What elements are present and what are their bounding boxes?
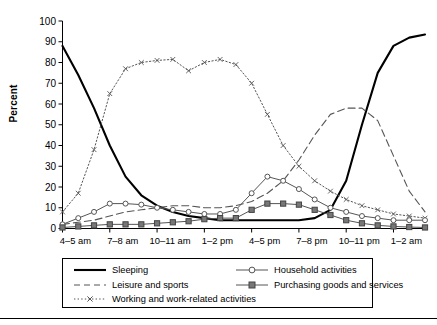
series-marker-purchasing bbox=[312, 207, 317, 212]
y-tick-label: 80 bbox=[45, 57, 57, 68]
y-tick-label: 60 bbox=[45, 99, 57, 110]
line-filled-square-swatch bbox=[235, 279, 269, 291]
series-marker-working bbox=[312, 178, 317, 183]
series-marker-household bbox=[92, 209, 97, 214]
legend-item-sleeping[interactable]: Sleeping bbox=[63, 264, 215, 276]
dashed-line-swatch bbox=[73, 279, 107, 291]
series-marker-purchasing bbox=[170, 220, 175, 225]
series-marker-household bbox=[170, 207, 175, 212]
series-marker-household bbox=[328, 205, 333, 210]
y-tick-label: 0 bbox=[50, 223, 56, 234]
series-marker-purchasing bbox=[328, 212, 333, 217]
series-marker-household bbox=[249, 191, 254, 196]
legend-label: Sleeping bbox=[112, 265, 148, 275]
series-marker-purchasing bbox=[422, 225, 427, 230]
series-line-sleeping bbox=[63, 34, 426, 220]
series-marker-household bbox=[76, 216, 81, 221]
series-marker-working bbox=[186, 68, 191, 73]
series-marker-working bbox=[281, 143, 286, 148]
series-marker-purchasing bbox=[344, 218, 349, 223]
series-marker-household bbox=[155, 205, 160, 210]
series-marker-purchasing bbox=[107, 222, 112, 227]
chart-legend: SleepingHousehold activitiesLeisure and … bbox=[62, 258, 373, 308]
series-marker-household bbox=[375, 216, 380, 221]
series-marker-purchasing bbox=[139, 222, 144, 227]
series-marker-household bbox=[107, 201, 112, 206]
series-marker-working bbox=[391, 212, 396, 217]
legend-label: Purchasing goods and services bbox=[274, 280, 403, 290]
time-use-line-chart: Percent 01020304050607080901004–5 am7–8 … bbox=[0, 0, 437, 250]
x-tick-label: 4–5 am bbox=[60, 235, 91, 246]
series-marker-purchasing bbox=[218, 216, 223, 221]
series-marker-purchasing bbox=[265, 201, 270, 206]
series-marker-purchasing bbox=[123, 222, 128, 227]
y-tick-label: 70 bbox=[45, 78, 57, 89]
legend-label: Household activities bbox=[274, 265, 357, 275]
series-marker-working bbox=[360, 203, 365, 208]
y-tick-label: 20 bbox=[45, 182, 57, 193]
series-marker-working bbox=[328, 189, 333, 194]
line-open-circle-swatch bbox=[235, 264, 269, 276]
legend-row: SleepingHousehold activities bbox=[63, 263, 372, 278]
legend-label: Working and work-related activities bbox=[112, 294, 256, 304]
x-tick-label: 10–11 pm bbox=[339, 235, 380, 246]
series-marker-household bbox=[123, 201, 128, 206]
series-marker-purchasing bbox=[76, 224, 81, 229]
series-marker-purchasing bbox=[391, 224, 396, 229]
x-tick-label: 1–2 pm bbox=[202, 235, 233, 246]
chart-screenshot: Percent 01020304050607080901004–5 am7–8 … bbox=[0, 0, 437, 325]
series-marker-purchasing bbox=[91, 223, 96, 228]
y-tick-label: 40 bbox=[45, 140, 57, 151]
x-tick-label: 7–8 pm bbox=[296, 235, 327, 246]
x-tick-label: 10–11 am bbox=[150, 235, 191, 246]
series-marker-purchasing bbox=[202, 217, 207, 222]
series-line-working-and-work-related-activities bbox=[63, 59, 426, 218]
series-marker-household bbox=[202, 211, 207, 216]
solid-line-swatch bbox=[73, 264, 107, 276]
series-marker-household bbox=[391, 218, 396, 223]
series-marker-household bbox=[296, 187, 301, 192]
legend-item-working[interactable]: Working and work-related activities bbox=[63, 293, 256, 305]
series-marker-household bbox=[407, 218, 412, 223]
y-tick-label: 30 bbox=[45, 161, 57, 172]
series-marker-purchasing bbox=[359, 221, 364, 226]
series-marker-purchasing bbox=[60, 225, 65, 230]
series-marker-purchasing bbox=[186, 219, 191, 224]
legend-item-purchasing[interactable]: Purchasing goods and services bbox=[225, 279, 403, 291]
y-tick-label: 10 bbox=[45, 202, 57, 213]
x-tick-label: 7–8 am bbox=[107, 235, 138, 246]
series-marker-working bbox=[344, 197, 349, 202]
series-marker-household bbox=[186, 209, 191, 214]
series-line-purchasing-goods-and-services bbox=[63, 204, 426, 228]
series-marker-working bbox=[155, 58, 160, 63]
series-marker-household bbox=[139, 202, 144, 207]
series-marker-purchasing bbox=[281, 201, 286, 206]
series-marker-working bbox=[249, 81, 254, 86]
series-marker-working bbox=[233, 62, 238, 67]
series-line-household-activities bbox=[63, 177, 426, 225]
series-marker-purchasing bbox=[154, 221, 159, 226]
series-marker-purchasing bbox=[407, 224, 412, 229]
y-tick-label: 50 bbox=[45, 119, 57, 130]
legend-row: Leisure and sportsPurchasing goods and s… bbox=[63, 278, 372, 293]
series-marker-household bbox=[312, 197, 317, 202]
y-tick-label: 100 bbox=[39, 16, 56, 27]
series-marker-purchasing bbox=[296, 202, 301, 207]
legend-label: Leisure and sports bbox=[112, 280, 189, 290]
series-marker-working bbox=[297, 164, 302, 169]
legend-item-leisure[interactable]: Leisure and sports bbox=[63, 279, 215, 291]
x-tick-label: 4–5 pm bbox=[249, 235, 280, 246]
series-marker-purchasing bbox=[249, 207, 254, 212]
series-marker-household bbox=[423, 218, 428, 223]
series-marker-household bbox=[265, 174, 270, 179]
series-marker-household bbox=[281, 178, 286, 183]
x-tick-label: 1–2 am bbox=[391, 235, 422, 246]
plot-area: 01020304050607080901004–5 am7–8 am10–11 … bbox=[0, 0, 437, 250]
series-marker-purchasing bbox=[233, 216, 238, 221]
series-marker-working bbox=[123, 66, 128, 71]
legend-row: Working and work-related activities bbox=[63, 292, 372, 307]
series-marker-working bbox=[76, 191, 81, 196]
series-marker-working bbox=[218, 57, 223, 62]
legend-item-household[interactable]: Household activities bbox=[225, 264, 357, 276]
series-marker-household bbox=[233, 207, 238, 212]
